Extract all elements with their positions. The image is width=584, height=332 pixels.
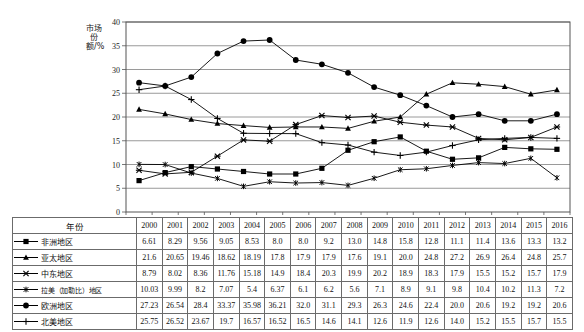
table-cell: 7.2	[547, 282, 573, 298]
table-row-legend-2: 中东地区	[13, 266, 137, 282]
table-cell: 15.8	[393, 234, 419, 250]
table-cell: 19.2	[495, 298, 521, 314]
table-row: 北美地区25.7526.5223.6719.716.5716.5216.514.…	[13, 314, 573, 330]
table-cell: 25.7	[547, 250, 573, 266]
table-cell: 20.65	[162, 250, 188, 266]
table-cell: 13.2	[547, 234, 573, 250]
table-cell: 13.0	[342, 234, 368, 250]
table-cell: 14.8	[367, 234, 393, 250]
table-cell: 12.6	[419, 314, 445, 330]
table-cell: 32.0	[290, 298, 316, 314]
table-header-year-2013: 2013	[470, 218, 496, 234]
legend-marker-triangle-icon	[13, 252, 39, 263]
table-cell: 17.9	[444, 266, 470, 282]
table-row-label: 非洲地区	[41, 236, 73, 247]
table-cell: 6.61	[137, 234, 163, 250]
table-cell: 15.7	[521, 266, 547, 282]
table-cell: 26.54	[162, 298, 188, 314]
table-cell: 17.9	[290, 250, 316, 266]
table-header-year-2010: 2010	[393, 218, 419, 234]
table-cell: 9.8	[444, 282, 470, 298]
table-cell: 9.56	[188, 234, 214, 250]
table-cell: 5.4	[239, 282, 265, 298]
table-cell: 8.0	[290, 234, 316, 250]
table-cell: 33.37	[213, 298, 239, 314]
table-header-year: 年份	[13, 218, 137, 234]
legend-marker-star-icon	[13, 284, 39, 295]
svg-text:10: 10	[112, 161, 120, 170]
table-cell: 10.03	[137, 282, 163, 298]
table-cell: 8.29	[162, 234, 188, 250]
table-cell: 15.5	[470, 266, 496, 282]
table-cell: 15.5	[495, 314, 521, 330]
table-row: 非洲地区6.618.299.569.058.538.08.09.213.014.…	[13, 234, 573, 250]
table-cell: 8.2	[188, 282, 214, 298]
table-cell: 18.19	[239, 250, 265, 266]
table-cell: 27.23	[137, 298, 163, 314]
table-header-year-2009: 2009	[367, 218, 393, 234]
table-cell: 15.18	[239, 266, 265, 282]
chart-plot-svg: 0510152025303540	[0, 0, 584, 216]
table-row: 欧洲地区27.2326.5428.433.3735.9836.2132.031.…	[13, 298, 573, 314]
table-header-year-2007: 2007	[316, 218, 342, 234]
table-cell: 9.2	[316, 234, 342, 250]
table-cell: 24.8	[419, 250, 445, 266]
table-cell: 8.79	[137, 266, 163, 282]
table-cell: 16.52	[265, 314, 291, 330]
table-cell: 8.9	[393, 282, 419, 298]
legend-marker-square-icon	[13, 236, 39, 247]
table-cell: 26.9	[470, 250, 496, 266]
table-row-label: 欧洲地区	[41, 300, 73, 311]
series-star	[137, 156, 559, 190]
table-cell: 26.3	[367, 298, 393, 314]
table-header-year-2000: 2000	[137, 218, 163, 234]
table-row-legend-3: 拉美（加勒比）地区	[13, 282, 137, 298]
table-cell: 20.0	[444, 298, 470, 314]
table-cell: 11.4	[470, 234, 496, 250]
svg-text:35: 35	[112, 42, 120, 51]
table-row: 中东地区8.798.028.3611.7615.1814.918.420.319…	[13, 266, 573, 282]
line-chart: 市场份额/% 0510152025303540	[0, 0, 584, 216]
data-table-region: 年份 2000200120022003200420052006200720082…	[12, 217, 572, 330]
table-cell: 6.1	[290, 282, 316, 298]
table-cell: 24.6	[393, 298, 419, 314]
table-cell: 20.6	[470, 298, 496, 314]
table-cell: 19.46	[188, 250, 214, 266]
table-cell: 8.02	[162, 266, 188, 282]
table-cell: 25.75	[137, 314, 163, 330]
svg-text:40: 40	[112, 18, 120, 27]
legend-marker-circle-icon	[13, 300, 39, 311]
table-cell: 9.05	[213, 234, 239, 250]
table-header-year-2003: 2003	[213, 218, 239, 234]
table-row-legend-5: 北美地区	[13, 314, 137, 330]
table-header-year-2008: 2008	[342, 218, 368, 234]
table-cell: 5.6	[342, 282, 368, 298]
table-cell: 22.4	[419, 298, 445, 314]
series-square	[136, 134, 559, 183]
table-cell: 11.1	[444, 234, 470, 250]
svg-text:30: 30	[112, 66, 120, 75]
table-row-label: 北美地区	[41, 316, 73, 327]
data-table: 年份 2000200120022003200420052006200720082…	[12, 217, 573, 330]
table-cell: 27.2	[444, 250, 470, 266]
table-row-label: 中东地区	[41, 268, 73, 279]
table-cell: 23.67	[188, 314, 214, 330]
table-cell: 26.52	[162, 314, 188, 330]
y-axis-ticks: 0510152025303540	[112, 18, 126, 216]
table-cell: 16.57	[239, 314, 265, 330]
table-cell: 21.6	[137, 250, 163, 266]
table-body: 非洲地区6.618.299.569.058.538.08.09.213.014.…	[13, 234, 573, 330]
legend-marker-plus-icon	[13, 316, 39, 327]
table-cell: 11.76	[213, 266, 239, 282]
table-cell: 18.4	[290, 266, 316, 282]
table-header-year-2011: 2011	[419, 218, 445, 234]
table-row: 拉美（加勒比）地区10.039.998.27.075.46.376.16.25.…	[13, 282, 573, 298]
table-cell: 10.4	[470, 282, 496, 298]
table-header-year-2015: 2015	[521, 218, 547, 234]
table-cell: 9.99	[162, 282, 188, 298]
table-cell: 13.3	[521, 234, 547, 250]
table-cell: 36.21	[265, 298, 291, 314]
table-header-year-2006: 2006	[290, 218, 316, 234]
table-cell: 13.6	[495, 234, 521, 250]
table-cell: 16.5	[290, 314, 316, 330]
